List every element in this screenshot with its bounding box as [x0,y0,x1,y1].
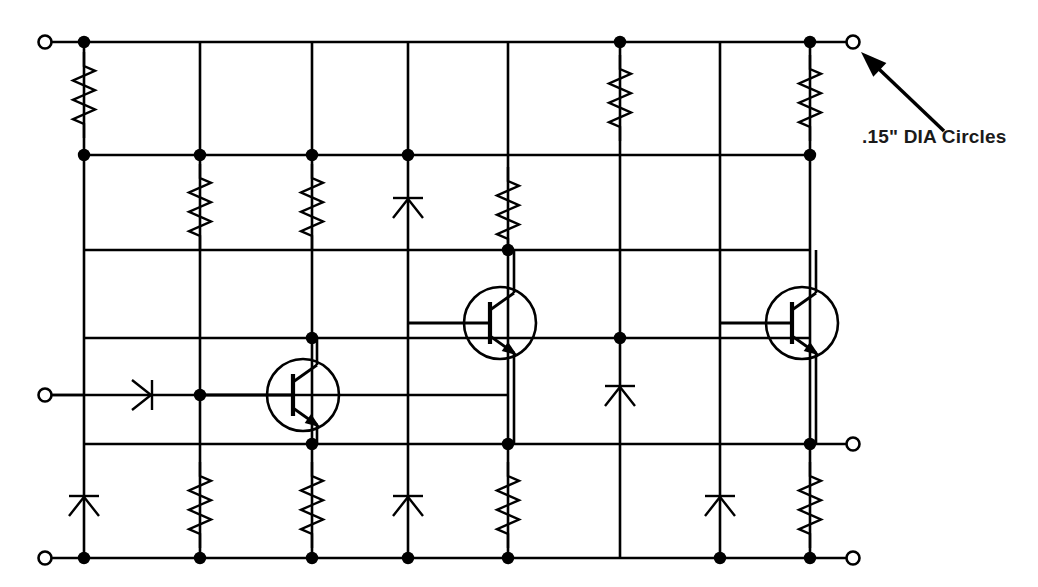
transistor-q2-collector-slant [490,293,514,310]
resistor-c5-bottom [497,462,519,548]
circuit-schematic-canvas: .15" DIA Circles [0,0,1038,587]
callout-leader-line [875,66,944,131]
transistor-layer [200,250,838,444]
dot-c5-bottom [502,552,514,564]
resistor-c3-bottom [301,462,323,548]
input-mid-left-circle[interactable] [39,389,52,402]
dot-c8-row2 [804,149,816,161]
dot-c2-bottom [194,552,206,564]
resistor-c5-row2 [497,167,519,253]
callout-label-text: .15" DIA Circles [862,126,1007,147]
output-mid-right[interactable] [810,438,860,451]
dot-c4-row2 [402,149,414,161]
dot-c6-row4 [614,332,626,344]
resistor-c8-top [799,55,821,141]
transistor-q3-emitter-arrow [804,342,819,355]
input-top-left-circle[interactable] [39,36,52,49]
input-bottom-left-circle[interactable] [39,552,52,565]
transistor-q3-collector-slant [792,293,816,310]
dot-c3-row2 [306,149,318,161]
component-layer [69,52,821,548]
output-mid-right-circle[interactable] [847,438,860,451]
dot-c6-top [614,36,626,48]
dot-c4-bottom [402,552,414,564]
transistor-q2 [408,250,536,444]
terminal-layer [39,36,860,565]
resistor-c2-row2 [189,164,211,250]
resistor-c3-row2 [301,164,323,250]
dot-c5-row5 [502,438,514,450]
output-bottom-right[interactable] [810,552,860,565]
transistor-q2-emitter-arrow [502,342,517,355]
resistor-c6-top [609,55,631,141]
dot-c1-row2 [78,149,90,161]
schematic-svg: .15" DIA Circles [0,0,1038,587]
transistor-q3 [720,250,838,444]
input-top-left[interactable] [39,36,85,49]
transistor-q1-collector-slant [293,365,317,382]
dot-c2-rowinput [194,389,206,401]
resistor-c8-bottom [799,462,821,548]
dot-c3-row4 [306,332,318,344]
output-top-right-circle[interactable] [847,36,860,49]
resistor-c2-bottom [189,462,211,548]
dot-c5-row3 [502,244,514,256]
dot-c3-row5 [306,438,318,450]
resistor-c1-top [73,52,95,138]
output-top-right[interactable] [810,36,860,49]
output-bottom-right-circle[interactable] [847,552,860,565]
junction-dot-layer [78,36,816,564]
callout-annotation: .15" DIA Circles [861,52,1007,147]
dot-c2-row2 [194,149,206,161]
dot-c3-bottom [306,552,318,564]
input-bottom-left[interactable] [39,552,85,565]
dot-c7-bottom [714,552,726,564]
wire-layer [45,42,810,558]
transistor-q1 [200,338,339,444]
input-mid-left[interactable] [39,389,85,402]
